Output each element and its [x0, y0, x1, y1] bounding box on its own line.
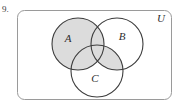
- universe-label-u: U: [157, 12, 166, 24]
- set-label-b: B: [119, 30, 126, 42]
- set-label-c: C: [91, 72, 99, 84]
- venn-diagram-figure: 9. A B C U: [0, 0, 179, 110]
- venn-diagram-canvas: A B C U: [0, 0, 179, 110]
- set-label-a: A: [64, 32, 72, 44]
